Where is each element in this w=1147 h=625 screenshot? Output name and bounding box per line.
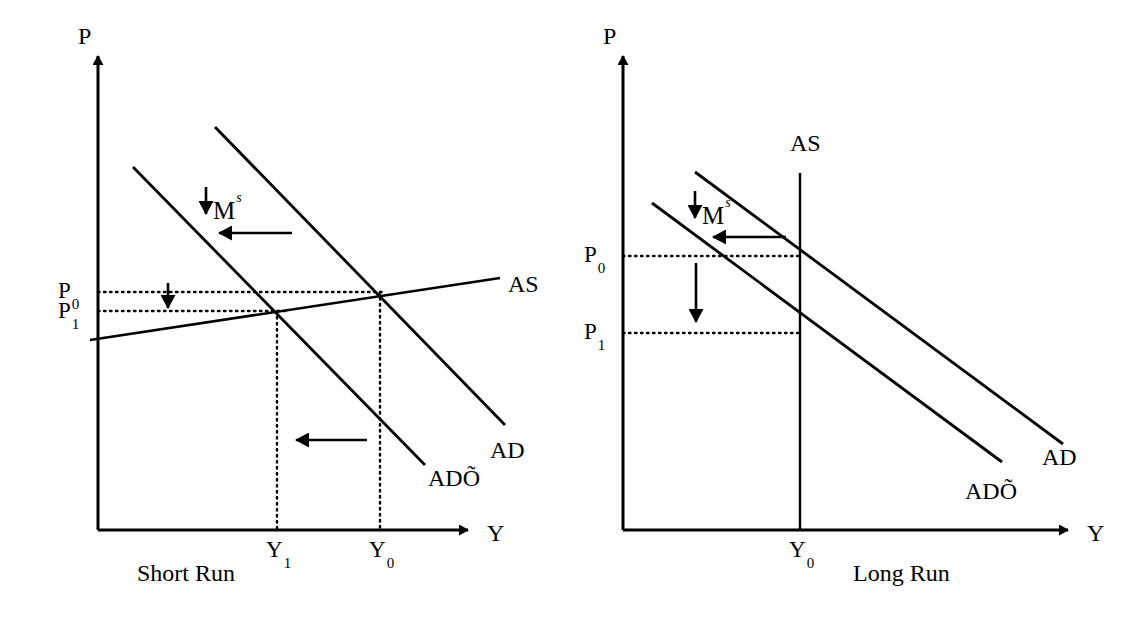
long-run-plot bbox=[590, 0, 1147, 625]
long-run-p1-label: P1 bbox=[584, 320, 604, 348]
long-run-p0-label: P0 bbox=[584, 243, 604, 271]
short-run-p1-label: P1 bbox=[58, 299, 78, 327]
long-run-as-label: AS bbox=[790, 131, 821, 155]
panel-long-run: P Y AS AD ADÕ P0 P1 Y0 Ms Long Run bbox=[590, 0, 1147, 625]
long-run-ad-curve bbox=[695, 172, 1063, 444]
long-run-x-axis-label: Y bbox=[1087, 521, 1104, 545]
short-run-y1-base: Y bbox=[266, 537, 283, 562]
short-run-p1-base: P bbox=[58, 298, 71, 323]
ad-as-figure: P Y AS AD ADÕ P0 P1 Y1 Y0 Ms Short Run bbox=[0, 0, 1147, 625]
long-run-ms-superscript: s bbox=[725, 195, 730, 210]
short-run-y1-subscript: 1 bbox=[284, 555, 292, 571]
long-run-ad-prime-label: ADÕ bbox=[965, 479, 1017, 503]
long-run-money-supply-label: Ms bbox=[702, 203, 730, 228]
short-run-ad-prime-label: ADÕ bbox=[428, 466, 480, 490]
short-run-p1-subscript: 1 bbox=[72, 316, 80, 332]
long-run-p0-base: P bbox=[584, 242, 597, 267]
long-run-p1-subscript: 1 bbox=[598, 337, 606, 353]
short-run-ad-curve bbox=[215, 127, 505, 425]
short-run-caption: Short Run bbox=[137, 561, 235, 585]
panel-short-run: P Y AS AD ADÕ P0 P1 Y1 Y0 Ms Short Run bbox=[0, 0, 590, 625]
short-run-y0-subscript: 0 bbox=[387, 555, 395, 571]
long-run-y0-base: Y bbox=[789, 537, 806, 562]
long-run-ad-label: AD bbox=[1042, 445, 1077, 469]
long-run-ad-prime-curve bbox=[652, 203, 1002, 462]
long-run-p0-subscript: 0 bbox=[598, 260, 606, 276]
short-run-y0-label: Y0 bbox=[369, 538, 393, 566]
long-run-p1-base: P bbox=[584, 319, 597, 344]
short-run-y0-base: Y bbox=[369, 537, 386, 562]
long-run-y-axis-label: P bbox=[603, 24, 616, 48]
short-run-ms-base: M bbox=[213, 197, 235, 224]
long-run-caption: Long Run bbox=[853, 561, 950, 585]
short-run-money-supply-label: Ms bbox=[213, 198, 241, 223]
short-run-ad-prime-curve bbox=[133, 167, 425, 465]
short-run-x-axis-label: Y bbox=[487, 521, 504, 545]
long-run-ms-base: M bbox=[702, 202, 724, 229]
short-run-ms-superscript: s bbox=[236, 190, 241, 205]
short-run-as-label: AS bbox=[508, 272, 539, 296]
short-run-y1-label: Y1 bbox=[266, 538, 290, 566]
short-run-y-axis-label: P bbox=[78, 24, 91, 48]
long-run-y0-label: Y0 bbox=[789, 538, 813, 566]
long-run-y0-subscript: 0 bbox=[807, 555, 815, 571]
short-run-ad-label: AD bbox=[490, 438, 525, 462]
